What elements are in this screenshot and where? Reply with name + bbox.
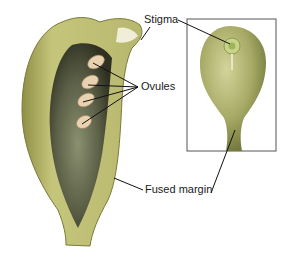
inset-whole-carpel <box>187 19 276 151</box>
carpel-cross-section <box>22 18 142 247</box>
label-ovules: Ovules <box>141 81 175 92</box>
label-stigma: Stigma <box>144 14 178 25</box>
carpel-illustration <box>0 0 286 255</box>
label-fused-margin: Fused margin <box>145 184 212 195</box>
fused-margin-leader-left <box>114 178 143 190</box>
diagram-canvas: Stigma Ovules Fused margin <box>0 0 286 255</box>
